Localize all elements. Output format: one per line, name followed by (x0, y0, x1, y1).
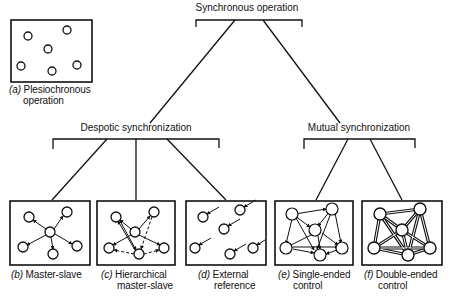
caption-e-line1: Single-ended (293, 269, 351, 280)
caption-f-line1: Double-ended (376, 269, 438, 280)
root-bracket (150, 20, 340, 123)
caption-b-line1: Master-slave (26, 269, 82, 280)
diagram-canvas (0, 0, 452, 300)
caption-b: (b) Master-slave (11, 269, 82, 280)
caption-d-line1: External (213, 269, 249, 280)
caption-c: (c) Hierarchical master-slave (101, 269, 173, 291)
caption-e-line2: control (278, 280, 322, 291)
panel-c-hierarchical (97, 201, 175, 265)
panel-a-plesiochronous (11, 20, 92, 82)
caption-d-line2: reference (198, 280, 255, 291)
caption-c-marker: (c) (101, 269, 112, 280)
panel-f-double-ended (362, 201, 442, 265)
caption-c-line1: Hierarchical (115, 269, 167, 280)
caption-c-line2: master-slave (101, 280, 173, 291)
mutual-bracket (304, 139, 415, 200)
panel-b-master-slave (10, 201, 90, 265)
caption-a-line1: Plesiochronous (24, 84, 91, 95)
root-title: Synchronous operation (196, 2, 299, 13)
caption-e-marker: (e) (278, 269, 290, 280)
panel-d-external-reference (186, 200, 266, 265)
caption-a-marker: (a) (9, 84, 21, 95)
caption-a-line2: operation (9, 95, 64, 106)
caption-b-marker: (b) (11, 269, 23, 280)
mutual-title: Mutual synchronization (308, 122, 410, 133)
caption-d: (d) External reference (198, 269, 255, 291)
caption-f-line2: control (364, 280, 407, 291)
caption-d-marker: (d) (198, 269, 210, 280)
caption-e: (e) Single-ended control (278, 269, 350, 291)
caption-f-marker: (f) (364, 269, 373, 280)
panel-e-single-ended (275, 201, 353, 265)
caption-f: (f) Double-ended control (364, 269, 437, 291)
despotic-bracket (52, 139, 226, 200)
despotic-title: Despotic synchronization (80, 122, 191, 133)
caption-a: (a) Plesiochronous operation (9, 84, 91, 106)
